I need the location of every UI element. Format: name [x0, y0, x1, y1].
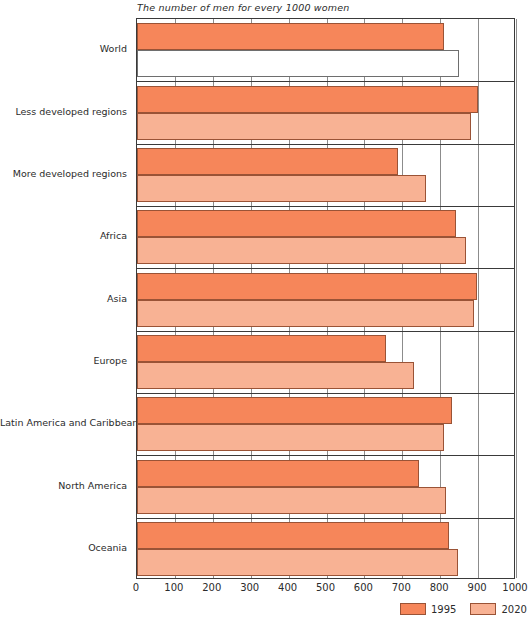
x-tick-label: 600: [354, 582, 373, 593]
legend-swatch-icon: [470, 603, 496, 615]
bar: [137, 86, 478, 113]
bar: [137, 549, 458, 576]
row-separator: [137, 268, 514, 269]
legend-item[interactable]: 1995: [400, 603, 456, 615]
x-tick-label: 100: [164, 582, 183, 593]
plot-area: [136, 18, 515, 579]
legend-item[interactable]: 2020: [470, 603, 526, 615]
bar: [137, 113, 471, 140]
bar: [137, 362, 414, 389]
bar: [137, 148, 398, 175]
row-separator: [137, 144, 514, 145]
category-axis-labels: WorldLess developed regionsMore develope…: [0, 18, 131, 579]
chart-title: The number of men for every 1000 women: [137, 2, 350, 13]
bar: [137, 50, 459, 77]
legend-label: 2020: [501, 604, 526, 615]
category-label: North America: [0, 480, 127, 491]
x-tick-label: 1000: [502, 582, 527, 593]
x-tick-label: 400: [278, 582, 297, 593]
chart-legend: 19952020: [400, 601, 527, 617]
bar: [137, 300, 474, 327]
gridline-900: [478, 19, 479, 578]
category-label: World: [0, 43, 127, 54]
row-separator: [137, 393, 514, 394]
bar: [137, 273, 477, 300]
category-label: More developed regions: [0, 168, 127, 179]
row-separator: [137, 81, 514, 82]
category-label: Europe: [0, 355, 127, 366]
row-separator: [137, 331, 514, 332]
x-tick-label: 200: [202, 582, 221, 593]
row-separator: [137, 206, 514, 207]
row-separator: [137, 455, 514, 456]
x-tick-label: 0: [133, 582, 139, 593]
bar: [137, 460, 419, 487]
bar: [137, 487, 446, 514]
x-tick-label: 300: [240, 582, 259, 593]
bar: [137, 522, 449, 549]
category-label: Asia: [0, 293, 127, 304]
bar: [137, 23, 444, 50]
bar: [137, 210, 456, 237]
x-tick-label: 500: [316, 582, 335, 593]
bar: [137, 424, 444, 451]
legend-swatch-icon: [400, 603, 426, 615]
x-tick-label: 700: [392, 582, 411, 593]
category-label: Less developed regions: [0, 106, 127, 117]
category-label: Oceania: [0, 542, 127, 553]
gridline-1000: [516, 19, 517, 578]
bar: [137, 397, 452, 424]
category-label: Africa: [0, 230, 127, 241]
x-tick-label: 800: [430, 582, 449, 593]
legend-label: 1995: [431, 604, 456, 615]
x-axis-tick-labels: 01002003004005006007008009001000: [0, 582, 532, 598]
bar: [137, 237, 466, 264]
x-tick-label: 900: [468, 582, 487, 593]
category-label: Latin America and Caribbean: [0, 417, 127, 428]
bar: [137, 175, 426, 202]
bar: [137, 335, 386, 362]
chart-container: The number of men for every 1000 women W…: [0, 0, 532, 620]
row-separator: [137, 518, 514, 519]
